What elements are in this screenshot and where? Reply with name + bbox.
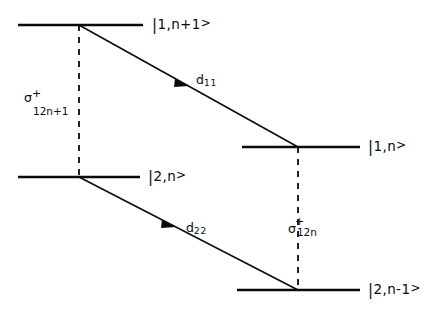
state-label-2-n: |2,n> [148,169,187,185]
transition-subscript: 22 [194,226,207,236]
transition-arrowhead-d11 [174,79,189,88]
energy-level-diagram: |1,n+1> |2,n> |1,n> |2,n-1> d11 d22 σ+ 1… [0,0,427,316]
state-label-1-n-plus-1: |1,n+1> [152,17,211,33]
transition-arrowhead-d22 [161,220,176,229]
sigma-stack: σ+ [288,222,296,236]
sigma-symbol: σ [24,90,32,105]
transition-label-d22: d22 [186,222,207,236]
ket-angle: > [176,168,186,182]
transition-subscript: 11 [204,78,217,88]
ket-angle: > [201,16,211,30]
coupling-label-sigma-12n: σ+12n [288,222,317,238]
transition-symbol: d [196,72,204,87]
sigma-superscript: + [295,216,304,227]
ket-body: 1,n [373,138,396,154]
state-label-2-n-minus-1: |2,n-1> [368,282,421,298]
transition-symbol: d [186,220,194,235]
ket-body: 1,n+1 [157,16,200,32]
transition-label-d11: d11 [196,74,217,88]
ket-angle: > [396,138,406,152]
ket-angle: > [410,281,420,295]
state-label-1-n: |1,n> [368,139,407,155]
sigma-superscript: + [32,87,41,100]
ket-body: 2,n-1 [373,281,410,297]
diagram-canvas [0,0,427,316]
coupling-label-sigma-12n-plus-1: σ+ 12n+1 [24,88,69,117]
sigma-subscript: 12n+1 [24,106,69,117]
ket-body: 2,n [153,168,176,184]
